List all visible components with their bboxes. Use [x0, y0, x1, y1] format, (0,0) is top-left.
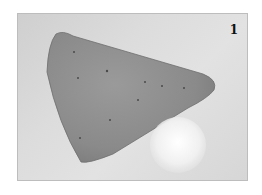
felt-and-pompom-illustration: [18, 14, 248, 181]
photo: 1: [17, 13, 248, 181]
pompom: [150, 117, 206, 173]
step-number: 1: [230, 23, 238, 37]
